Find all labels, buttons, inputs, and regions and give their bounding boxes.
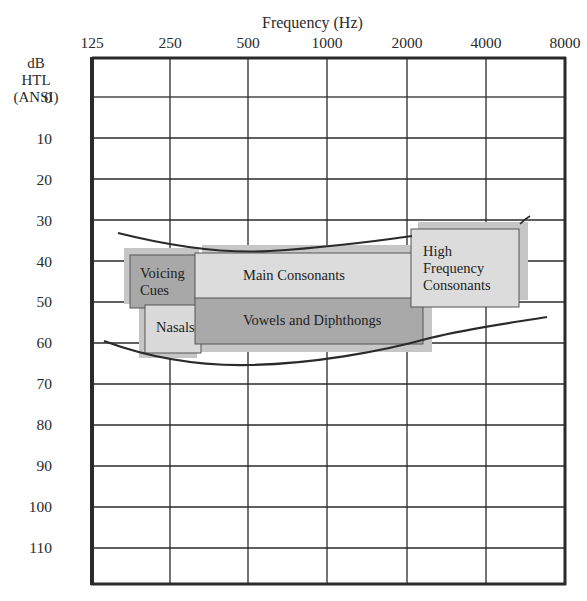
hf-label-line2: Frequency [423,260,491,277]
hf-label-line1: High [423,243,491,260]
main-consonants-label: Main Consonants [243,267,345,284]
voicing-cues-label: Voicing Cues [140,265,185,299]
high-frequency-consonants-label: High Frequency Consonants [423,243,491,294]
hf-label-line3: Consonants [423,277,491,294]
vowels-diphthongs-label: Vowels and Diphthongs [243,312,381,329]
audiogram-plot [0,0,587,601]
nasals-label: Nasals [156,319,195,336]
voicing-cues-label-line1: Voicing [140,265,185,282]
voicing-cues-label-line2: Cues [140,282,185,299]
